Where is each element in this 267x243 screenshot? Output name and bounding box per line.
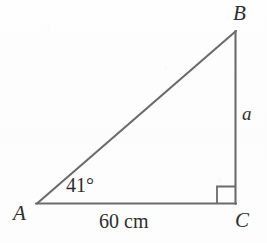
side-label-base-length: 60 cm [99,211,148,231]
vertex-label-a: A [13,203,26,224]
vertex-label-c: C [235,210,249,231]
right-angle-marker-icon [217,187,235,204]
triangle-figure: A B C a 41° 60 cm [0,0,267,243]
angle-label-at-a: 41° [66,175,94,195]
triangle-drawing [0,0,267,243]
vertex-label-b: B [233,3,246,24]
side-label-a: a [242,104,252,123]
